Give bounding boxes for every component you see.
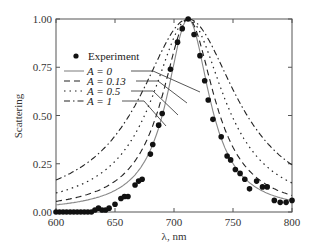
experiment-point	[247, 186, 253, 192]
experiment-point	[289, 198, 295, 204]
experiment-point	[156, 122, 162, 128]
x-axis-label: λ, nm	[162, 230, 187, 242]
experiment-point	[272, 198, 278, 204]
experiment-point	[218, 134, 224, 140]
experiment-point	[125, 194, 131, 200]
y-tick-label: 0.75	[33, 61, 53, 73]
x-tick-label: 750	[225, 216, 242, 228]
experiment-point	[191, 32, 197, 38]
experiment-point	[139, 176, 145, 182]
experiment-point	[159, 111, 165, 117]
experiment-point	[148, 151, 154, 157]
y-tick-label: 0.00	[33, 206, 53, 218]
experiment-point	[202, 78, 208, 84]
experiment-point	[264, 184, 270, 190]
experiment-point	[112, 201, 118, 207]
scattering-chart: 6006507007508000.000.250.500.751.00 Expe…	[0, 0, 314, 249]
experiment-point	[233, 167, 239, 173]
experiment-point	[283, 200, 289, 206]
legend-label: A = 1	[86, 95, 112, 107]
experiment-point	[254, 178, 260, 184]
experiment-point	[150, 142, 156, 148]
x-tick-label: 700	[166, 216, 183, 228]
legend-label-experiment: Experiment	[88, 50, 139, 62]
experiment-point	[168, 66, 174, 72]
legend: ExperimentA = 0A = 0.13A = 0.5A = 1	[64, 50, 200, 126]
experiment-point	[106, 205, 112, 211]
experiment-point	[205, 97, 211, 103]
legend-leader-line	[131, 91, 178, 115]
x-tick-label: 650	[107, 216, 124, 228]
experiment-point	[228, 157, 234, 163]
x-tick-label: 800	[284, 216, 301, 228]
y-tick-label: 1.00	[33, 13, 53, 25]
legend-leader-line	[131, 71, 200, 92]
experiment-point	[237, 171, 243, 177]
experiment-point	[179, 26, 185, 32]
y-axis-label: Scattering	[12, 93, 24, 138]
experiment-point	[210, 117, 216, 123]
y-tick-label: 0.25	[33, 158, 53, 170]
experiment-point	[197, 53, 203, 59]
experiment-point	[185, 16, 191, 22]
y-tick-label: 0.50	[33, 110, 53, 122]
legend-marker-experiment	[73, 53, 78, 58]
experiment-point	[175, 39, 181, 45]
experiment-points	[53, 16, 295, 215]
model-curves	[56, 19, 292, 205]
experiment-point	[242, 176, 248, 182]
plot-axes: 6006507007508000.000.250.500.751.00	[33, 13, 301, 228]
experiment-point	[277, 200, 283, 206]
curve-a-0-13	[56, 19, 292, 201]
